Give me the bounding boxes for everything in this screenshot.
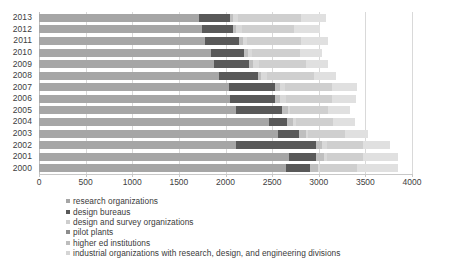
bar-segment [301, 37, 327, 45]
x-axis-label-2500: 2500 [263, 177, 282, 187]
bar-segment [236, 141, 317, 149]
y-axis-label-2003: 2003 [13, 129, 32, 138]
bar-segment [252, 49, 300, 57]
y-axis-label-2012: 2012 [13, 25, 32, 34]
legend-swatch-icon [66, 230, 70, 234]
bar-segment [316, 153, 324, 161]
legend-swatch-icon [66, 210, 70, 214]
legend-label: pilot plants [73, 227, 113, 237]
y-axis-label-2011: 2011 [13, 36, 32, 45]
bar-segment [289, 153, 316, 161]
bar-segment [308, 130, 345, 138]
bar-segment [219, 72, 258, 80]
bar-segment [314, 72, 336, 80]
bar-segment [294, 25, 320, 33]
bar-segment [230, 95, 275, 103]
gridline-4000 [412, 12, 413, 174]
y-axis-label-2005: 2005 [13, 106, 32, 115]
bar-segment [39, 95, 230, 103]
bar-segment [39, 141, 236, 149]
bar-segment [300, 49, 322, 57]
legend-swatch-icon [66, 199, 70, 203]
legend-label: industrial organizations with research, … [73, 248, 340, 258]
bar-segment [296, 118, 333, 126]
bar-segment [211, 49, 245, 57]
bar-segment [39, 130, 278, 138]
legend-label: design and survey organizations [73, 217, 194, 227]
y-axis-label-2008: 2008 [13, 71, 32, 80]
bar-segment [285, 83, 332, 91]
y-axis-label-2007: 2007 [13, 83, 32, 92]
bar-series-container [39, 12, 412, 174]
legend-item: industrial organizations with research, … [66, 248, 456, 258]
y-axis-label-2002: 2002 [13, 141, 32, 150]
bar-segment [39, 106, 236, 114]
bar-segment [238, 14, 301, 22]
bar-segment [39, 118, 269, 126]
y-axis-label-2013: 2013 [13, 13, 32, 22]
bar-row [39, 141, 412, 149]
bar-segment [363, 153, 398, 161]
bar-segment [301, 14, 326, 22]
stacked-bar-chart: 2013201220112010200920082007200620052004… [0, 0, 460, 260]
bar-segment [332, 95, 356, 103]
bar-segment [310, 164, 318, 172]
bar-segment [39, 83, 229, 91]
bar-segment [320, 164, 356, 172]
bar-segment [363, 141, 390, 149]
bar-segment [327, 153, 363, 161]
bar-segment [278, 130, 299, 138]
bar-segment [39, 25, 202, 33]
bar-segment [39, 60, 214, 68]
legend-label: research organizations [73, 196, 158, 206]
x-axis-label-3000: 3000 [309, 177, 328, 187]
x-tick-3000 [319, 174, 320, 177]
bar-row [39, 95, 412, 103]
bar-segment [259, 60, 306, 68]
x-tick-2000 [226, 174, 227, 177]
x-axis-label-0: 0 [37, 177, 42, 187]
bar-segment [327, 141, 363, 149]
legend-item: higher ed institutions [66, 238, 456, 248]
bar-segment [357, 164, 398, 172]
x-tick-1500 [179, 174, 180, 177]
bar-segment [202, 25, 234, 33]
bar-segment [199, 14, 230, 22]
x-tick-1000 [132, 174, 133, 177]
bar-row [39, 37, 412, 45]
x-axis-label-2000: 2000 [216, 177, 235, 187]
x-tick-500 [86, 174, 87, 177]
legend-item: research organizations [66, 196, 456, 206]
bar-segment [39, 164, 286, 172]
bar-segment [345, 130, 368, 138]
y-axis-label-2004: 2004 [13, 117, 32, 126]
bar-row [39, 72, 412, 80]
y-axis-label-2009: 2009 [13, 60, 32, 69]
bar-segment [290, 106, 328, 114]
bar-row [39, 153, 412, 161]
x-tick-0 [39, 174, 40, 177]
legend-item: pilot plants [66, 227, 456, 237]
bar-segment [242, 25, 294, 33]
bar-row [39, 106, 412, 114]
y-axis-tick-labels: 2013201220112010200920082007200620052004… [0, 12, 35, 174]
bar-row [39, 25, 412, 33]
bar-segment [39, 37, 205, 45]
y-axis-label-2000: 2000 [13, 164, 32, 173]
bar-segment [328, 106, 350, 114]
bar-row [39, 83, 412, 91]
bar-segment [267, 72, 314, 80]
bar-segment [39, 153, 289, 161]
bar-row [39, 118, 412, 126]
bar-segment [332, 83, 357, 91]
legend-label: design bureaus [73, 207, 130, 217]
bar-segment [214, 60, 249, 68]
x-tick-2500 [272, 174, 273, 177]
bar-row [39, 49, 412, 57]
x-axis-label-500: 500 [79, 177, 93, 187]
bar-segment [229, 83, 275, 91]
bar-segment [247, 37, 301, 45]
chart-legend: research organizationsdesign bureausdesi… [66, 196, 456, 258]
legend-swatch-icon [66, 241, 70, 245]
y-axis-label-2010: 2010 [13, 48, 32, 57]
